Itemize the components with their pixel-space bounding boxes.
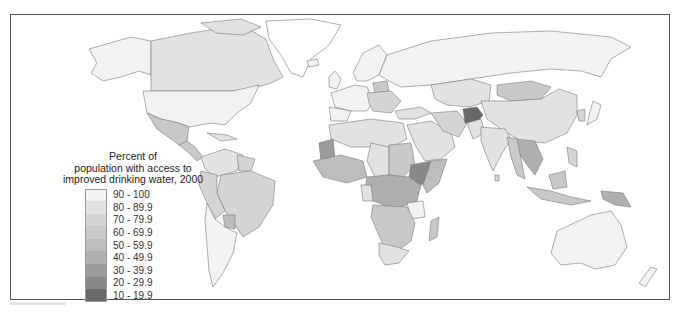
legend-item: 50 - 59.9 [85, 239, 203, 252]
legend-swatch [85, 251, 107, 264]
legend-label: 20 - 29.9 [113, 277, 152, 288]
legend-item: 60 - 69.9 [85, 226, 203, 239]
region-philippines [567, 147, 577, 167]
region-uk [329, 71, 341, 89]
legend-swatch [85, 201, 107, 214]
legend-title-line-3: improved drinking water, 2000 [63, 174, 203, 186]
legend-label: 50 - 59.9 [113, 240, 152, 251]
legend-swatch [85, 264, 107, 277]
legend-item: 20 - 29.9 [85, 277, 203, 290]
legend-swatch [85, 239, 107, 252]
legend-swatch [85, 189, 107, 202]
region-indonesia [527, 187, 591, 205]
region-borneo [549, 171, 567, 189]
legend-label: 90 - 100 [113, 189, 150, 200]
region-sahel [367, 143, 389, 177]
region-korea [577, 109, 585, 121]
legend-item: 30 - 39.9 [85, 264, 203, 277]
decorative-underbar [10, 302, 66, 305]
region-guianas [237, 155, 255, 171]
legend-swatch [85, 277, 107, 290]
region-southern-africa [371, 205, 415, 251]
region-japan [587, 101, 601, 125]
region-madagascar [429, 217, 439, 241]
region-sri-lanka [495, 175, 499, 181]
region-eastern-europe [367, 91, 401, 113]
legend-item: 70 - 79.9 [85, 214, 203, 227]
region-north-africa [329, 119, 407, 147]
legend-label: 60 - 69.9 [113, 227, 152, 238]
region-alaska [89, 37, 151, 81]
legend-item: 40 - 49.9 [85, 251, 203, 264]
legend-label: 80 - 89.9 [113, 202, 152, 213]
legend-title-line-1: Percent of [63, 151, 203, 163]
legend-swatch [85, 214, 107, 227]
region-west-africa [313, 155, 367, 183]
legend-label: 10 - 19.9 [113, 290, 152, 301]
region-png [601, 191, 631, 207]
legend-swatch [85, 289, 107, 302]
legend-label: 70 - 79.9 [113, 214, 152, 225]
region-new-zealand [639, 267, 657, 287]
region-australia [551, 211, 627, 269]
legend-label: 40 - 49.9 [113, 252, 152, 263]
region-russia [379, 31, 631, 87]
map-frame: Percent of population with access to imp… [10, 14, 670, 300]
region-caribbean [207, 133, 237, 141]
legend-item: 10 - 19.9 [85, 289, 203, 302]
legend-item: 90 - 100 [85, 189, 203, 202]
region-south-africa [379, 243, 409, 265]
region-gabon [361, 185, 373, 201]
legend-item: 80 - 89.9 [85, 201, 203, 214]
legend-swatch [85, 226, 107, 239]
region-turkey [395, 107, 431, 119]
map-legend: Percent of population with access to imp… [63, 151, 203, 302]
legend-items: 90 - 100 80 - 89.9 70 - 79.9 60 - 69.9 5… [85, 189, 203, 302]
region-india [481, 127, 511, 171]
legend-label: 30 - 39.9 [113, 265, 152, 276]
legend-title: Percent of population with access to imp… [63, 151, 203, 186]
region-canada [151, 25, 283, 91]
